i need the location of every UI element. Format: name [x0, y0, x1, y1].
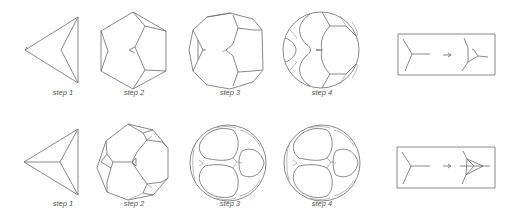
- row1-step4-label: step 4: [312, 88, 332, 97]
- row2-step2-figure: [97, 124, 168, 200]
- row2-step4-label: step 4: [312, 199, 332, 208]
- row2-rule-box: [397, 147, 495, 188]
- row1-step4-figure: [283, 12, 359, 88]
- diagram-canvas: [0, 0, 518, 220]
- row1-step2-figure: [101, 12, 166, 89]
- row2-step1-figure: [24, 129, 78, 195]
- row2-step3-figure: [190, 125, 266, 201]
- row2-step2-label: step 2: [124, 199, 144, 208]
- row2-step1-label: step 1: [53, 199, 73, 208]
- row1-step3-label: step 3: [220, 88, 240, 97]
- row1-step2-label: step 2: [124, 88, 144, 97]
- row2-step4-figure: [284, 125, 360, 201]
- row1-step1-figure: [25, 17, 78, 83]
- row2-step3-label: step 3: [220, 199, 240, 208]
- row1-rule-box: [398, 34, 495, 75]
- row1-step1-label: step 1: [53, 88, 73, 97]
- row1-step3-figure: [189, 13, 263, 89]
